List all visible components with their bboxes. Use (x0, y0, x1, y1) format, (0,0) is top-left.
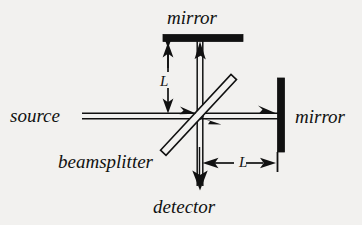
label-detector: detector (153, 197, 215, 216)
label-mirror-top: mirror (167, 8, 217, 27)
interferometer-figure: mirror mirror source beamsplitter detect… (0, 0, 362, 225)
label-mirror-right: mirror (295, 107, 345, 126)
label-length-horizontal: L (239, 155, 247, 170)
mirror-right (278, 78, 285, 152)
label-source: source (10, 106, 60, 125)
label-length-vertical: L (160, 74, 168, 89)
mirror-top (163, 35, 243, 42)
label-beamsplitter: beamsplitter (58, 152, 153, 171)
